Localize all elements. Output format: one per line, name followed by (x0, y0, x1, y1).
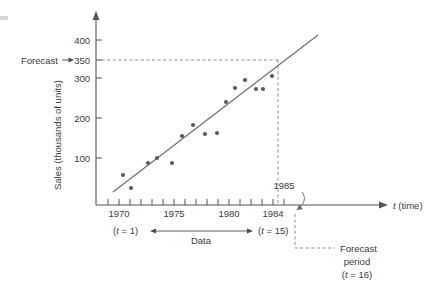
y-axis-ticks (96, 40, 102, 158)
y-tick-label-200: 200 (74, 113, 90, 124)
y-axis-title: Sales (thousands of units) (52, 80, 63, 190)
t-start-rest: = 1) (119, 225, 138, 236)
x-axis-title-rest: (time) (396, 200, 423, 211)
trend-line (113, 35, 318, 192)
data-point (243, 78, 247, 82)
data-point (270, 74, 274, 78)
data-point (261, 87, 265, 91)
x-axis-tick-labels: 1970 1975 1980 1984 (108, 208, 283, 219)
data-point (146, 161, 150, 165)
forecast-period-label-line2: period (344, 256, 370, 267)
forecast-period-label-line1: Forecast (340, 243, 377, 254)
data-span-arrowhead-right (247, 228, 253, 233)
page-edge-artifact (0, 16, 8, 20)
data-span-arrowhead-left (150, 228, 156, 233)
data-point (233, 86, 237, 90)
data-point (215, 131, 219, 135)
forecast-scatter-chart: 400 350 300 200 100 Sales (thousands of … (0, 0, 439, 289)
chart-canvas: 400 350 300 200 100 Sales (thousands of … (0, 0, 439, 289)
data-span-label: Data (191, 235, 212, 246)
x-tick-label-1980: 1980 (218, 208, 239, 219)
forecast-period-callout: Forecast period (t = 16) (295, 214, 377, 280)
forecast-year-label: 1985 (273, 180, 294, 191)
forecast-year-curved-arrow (297, 192, 305, 210)
x-tick-label-1975: 1975 (163, 208, 184, 219)
y-tick-label-300: 300 (74, 73, 90, 84)
x-tick-label-1970: 1970 (108, 208, 129, 219)
data-point (155, 156, 159, 160)
data-point (180, 134, 184, 138)
data-point (191, 123, 195, 127)
forecast-period-leader-line (295, 214, 335, 248)
y-tick-label-400: 400 (74, 35, 90, 46)
x-tick-label-1984: 1984 (262, 208, 283, 219)
forecast-period-label-line3: (t = 16) (342, 269, 372, 280)
data-point (129, 186, 133, 190)
data-point (121, 173, 125, 177)
data-point (170, 161, 174, 165)
data-point (203, 132, 207, 136)
y-tick-label-100: 100 (74, 153, 90, 164)
t-end-rest: = 15) (264, 225, 289, 236)
x-axis-arrowhead (379, 202, 388, 209)
y-tick-label-350: 350 (74, 55, 90, 66)
x-axis-ticks (108, 199, 284, 205)
data-point (254, 87, 258, 91)
forecast-guide-lines (96, 60, 278, 205)
forecast-annotation: Forecast (21, 55, 74, 66)
t-start-label: (t = 1) (113, 225, 138, 236)
y-axis-tick-labels: 400 350 300 200 100 (74, 35, 90, 164)
forecast-label: Forecast (21, 55, 58, 66)
t16-rest: = 16) (348, 269, 373, 280)
data-points-group (121, 74, 274, 190)
t-end-label: (t = 15) (258, 225, 288, 236)
data-point (224, 100, 228, 104)
axes-group (93, 11, 388, 208)
y-axis-arrowhead (93, 11, 100, 20)
x-axis-title: t (time) (393, 200, 423, 211)
data-span-annotation: (t = 1) Data (t = 15) (113, 225, 288, 246)
